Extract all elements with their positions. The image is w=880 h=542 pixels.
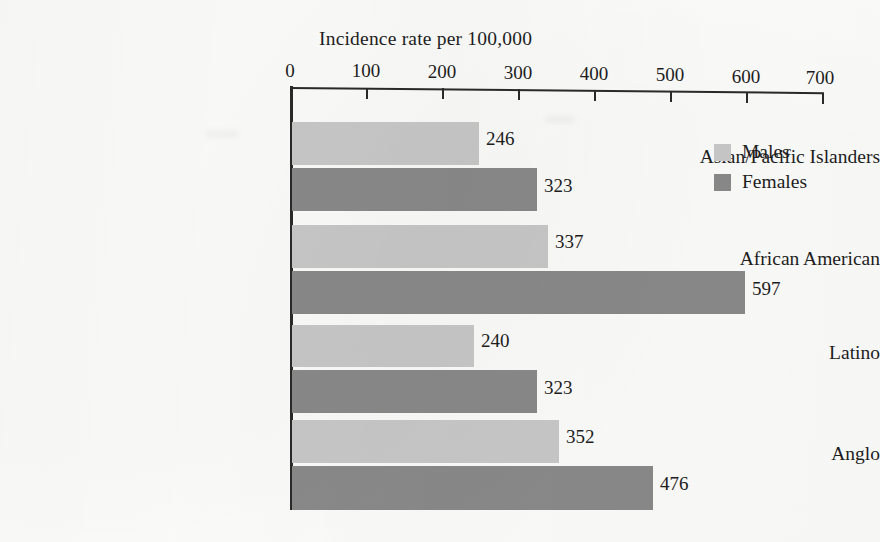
x-tick-mark-0: [290, 87, 292, 98]
bar-value-african-american-males: 337: [555, 231, 584, 253]
scan-smudge: [205, 130, 239, 138]
bar-latino-males: [292, 325, 474, 367]
category-label-latino: Latino: [608, 342, 880, 364]
bar-asian-pacific-islanders-females: [292, 168, 537, 211]
x-axis-line: [290, 87, 824, 94]
chart-axis-title: Incidence rate per 100,000: [319, 28, 532, 50]
x-tick-label-0: 0: [285, 60, 295, 82]
bar-chart: Incidence rate per 100,000 0 100 200 300…: [0, 0, 880, 542]
x-tick-mark-600: [746, 92, 748, 103]
x-tick-mark-700: [822, 93, 824, 104]
bar-value-latino-females: 323: [544, 377, 573, 399]
chart-legend: Males Females: [714, 137, 807, 197]
x-tick-mark-400: [594, 90, 596, 101]
bar-value-asian-pacific-islanders-males: 246: [486, 128, 515, 150]
bar-value-anglo-males: 352: [566, 426, 595, 448]
x-tick-label-400: 400: [580, 63, 609, 85]
category-label-african-american: African American: [608, 248, 880, 270]
x-tick-label-300: 300: [504, 62, 533, 84]
scan-smudge: [545, 116, 575, 123]
legend-label-males: Males: [742, 141, 790, 163]
bar-asian-pacific-islanders-males: [292, 122, 479, 165]
x-tick-label-500: 500: [656, 64, 685, 86]
legend-item-males: Males: [714, 137, 807, 167]
x-tick-mark-300: [518, 89, 520, 100]
bar-value-african-american-females: 597: [752, 278, 781, 300]
x-tick-mark-500: [670, 91, 672, 102]
bar-african-american-males: [292, 225, 548, 268]
x-tick-label-200: 200: [428, 61, 457, 83]
bar-anglo-females: [292, 466, 653, 510]
category-label-anglo: Anglo: [608, 443, 880, 465]
x-tick-label-700: 700: [806, 67, 835, 89]
bar-african-american-females: [292, 271, 745, 314]
bar-anglo-males: [292, 420, 559, 463]
x-tick-mark-200: [442, 88, 444, 99]
bar-value-anglo-females: 476: [660, 473, 689, 495]
bar-value-latino-males: 240: [481, 330, 510, 352]
bar-value-asian-pacific-islanders-females: 323: [544, 175, 573, 197]
legend-swatch-females-icon: [714, 174, 731, 191]
x-tick-mark-100: [366, 88, 368, 99]
x-tick-label-100: 100: [352, 60, 381, 82]
legend-item-females: Females: [714, 167, 807, 197]
x-tick-label-600: 600: [732, 66, 761, 88]
bar-latino-females: [292, 370, 537, 413]
legend-label-females: Females: [742, 171, 807, 193]
legend-swatch-males-icon: [714, 144, 731, 161]
